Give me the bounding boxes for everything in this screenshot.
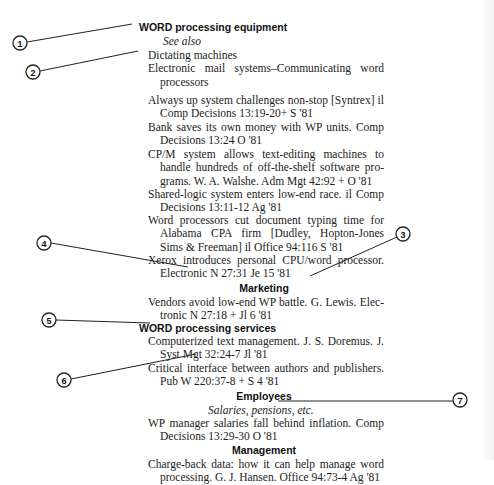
callout-5-label: 5: [46, 316, 51, 326]
callout-3-leader-line: [310, 237, 397, 276]
callout-4-leader-line: [51, 243, 188, 267]
callout-2-label: 2: [30, 68, 35, 78]
callout-4-label: 4: [41, 239, 46, 249]
callout-6-label: 6: [61, 376, 66, 386]
callout-2-leader-line: [40, 51, 138, 71]
callout-1-leader-line: [27, 24, 132, 42]
callout-6-leader-line: [71, 354, 196, 379]
callout-1-label: 1: [17, 39, 22, 49]
index-entry: Charge-back data: how it can help manage…: [148, 458, 384, 485]
callout-3-label: 3: [400, 230, 405, 240]
callout-5-leader-line: [56, 320, 150, 323]
entry-line: processing. G. J. Hansen. Office 94:73-4…: [148, 471, 384, 484]
callout-7-label: 7: [457, 396, 462, 406]
